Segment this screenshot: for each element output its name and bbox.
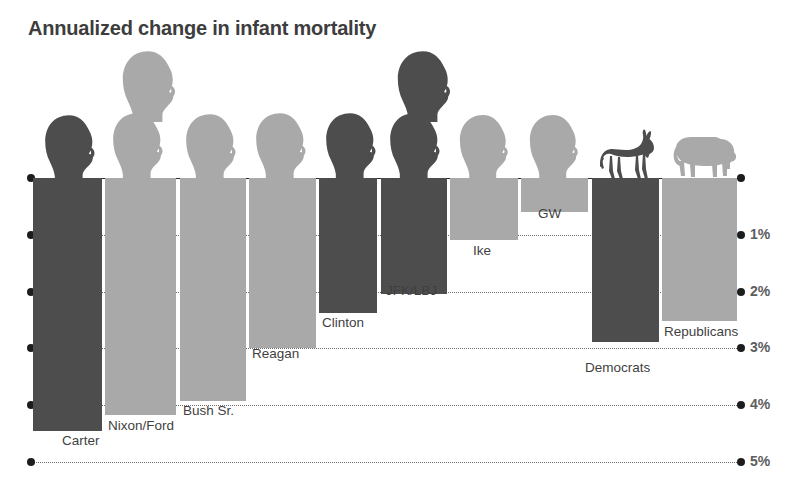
president-head-silhouette-nixon-ford (108, 112, 166, 180)
elephant-icon (672, 130, 736, 180)
bar-nixon-ford[interactable] (105, 178, 176, 415)
bar-label-gw: GW (538, 206, 561, 221)
bar-label-ike: Ike (473, 243, 491, 258)
bar-reagan[interactable] (249, 178, 316, 348)
donkey-icon (600, 128, 658, 180)
president-head-silhouette-gw (525, 114, 581, 180)
bar-ike[interactable] (450, 178, 518, 240)
bar-label-jfk-lbj: JFK/LBJ (386, 283, 437, 298)
bar-label-bush-sr: Bush Sr. (183, 403, 234, 418)
bar-carter[interactable] (33, 178, 102, 431)
axis-dot-right-2% (737, 288, 745, 296)
bar-bush-sr[interactable] (180, 178, 246, 401)
bar-label-republicans: Republicans (664, 324, 738, 339)
axis-tick-label-4%: 4% (750, 396, 770, 412)
axis-dot-right-4% (737, 401, 745, 409)
axis-dot-right-0% (737, 174, 745, 182)
bar-republicans[interactable] (662, 178, 737, 321)
axis-dot-right-1% (737, 231, 745, 239)
president-head-silhouette-jfk-lbj (385, 112, 443, 180)
axis-tick-label-3%: 3% (750, 339, 770, 355)
axis-tick-label-2%: 2% (750, 283, 770, 299)
axis-dot-left-5% (27, 458, 35, 466)
bar-clinton[interactable] (319, 178, 377, 313)
bar-label-clinton: Clinton (322, 315, 364, 330)
axis-tick-label-5%: 5% (750, 453, 770, 469)
chart-root: Annualized change in infant mortality 1%… (0, 0, 792, 491)
bar-label-democrats: Democrats (585, 360, 650, 375)
bar-democrats[interactable] (592, 178, 659, 342)
bar-label-reagan: Reagan (252, 346, 299, 361)
bar-label-carter: Carter (62, 433, 100, 448)
president-head-silhouette-bush-sr (181, 113, 239, 181)
president-head-silhouette-reagan (251, 112, 309, 180)
president-head-silhouette-jfk-lbj-second (393, 50, 453, 122)
axis-tick-label-1%: 1% (750, 226, 770, 242)
bar-label-nixon-ford: Nixon/Ford (108, 418, 174, 433)
president-head-silhouette-nixon-ford-second (118, 50, 178, 122)
president-head-silhouette-clinton (321, 112, 379, 180)
president-head-silhouette-carter (40, 114, 98, 182)
gridline-5% (31, 462, 741, 463)
axis-dot-right-3% (737, 344, 745, 352)
plot-area: 1%2%3%4%5%CarterNixon/FordBush Sr.Reagan… (0, 0, 792, 491)
president-head-silhouette-ike (455, 114, 511, 180)
bar-jfk-lbj[interactable] (381, 178, 447, 294)
axis-dot-right-5% (737, 458, 745, 466)
